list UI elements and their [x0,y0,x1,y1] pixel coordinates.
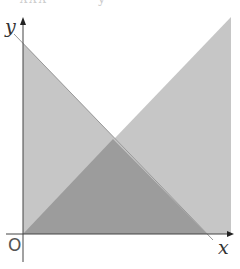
y-axis-label: y [5,15,16,37]
origin-label: O [8,235,21,255]
y-axis-arrow-icon [20,17,26,25]
x-axis-label: x [218,236,229,258]
diagram-canvas [0,0,240,269]
